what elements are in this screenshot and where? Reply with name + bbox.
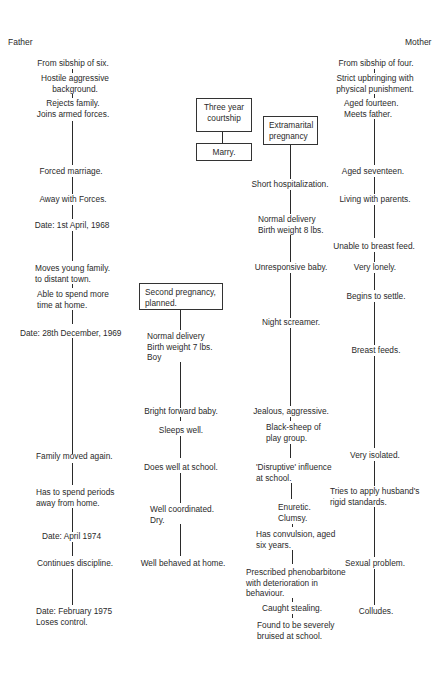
connector-line — [374, 356, 375, 448]
connector-line — [374, 205, 375, 238]
mother-event: Aged fourteen. Meets father. — [344, 98, 398, 119]
connector-line — [374, 252, 375, 262]
second-child-event: Bright forward baby. — [144, 406, 218, 417]
second-child-event: Normal delivery Birth weight 7 lbs. Boy — [147, 331, 212, 363]
connector-line — [72, 205, 73, 219]
first-child-event: 'Disruptive' influence at school. — [256, 462, 332, 483]
connector-line — [290, 190, 291, 214]
mother-column-header: Mother — [405, 37, 431, 47]
connector-line — [292, 614, 293, 618]
connector-line — [72, 463, 73, 485]
mother-event: Unable to breast feed. — [333, 241, 415, 252]
second-child-event: Sleeps well. — [159, 425, 203, 436]
mother-event: From sibship of four. — [338, 58, 413, 69]
connector-line — [72, 569, 73, 605]
connector-line — [180, 362, 181, 408]
connector-line — [180, 417, 181, 421]
mother-event: Very lonely. — [354, 262, 396, 273]
father-event: Continues discipline. — [37, 558, 113, 569]
connector-line — [180, 473, 181, 503]
father-event: Date: 28th December, 1969 — [20, 328, 121, 339]
mother-event: Begins to settle. — [346, 291, 405, 302]
connector-line — [72, 284, 73, 288]
connector-line — [72, 508, 73, 532]
connector-line — [180, 524, 181, 556]
connector-line — [374, 507, 375, 557]
first-child-event: Unresponsive baby. — [255, 262, 328, 273]
connector-line — [374, 177, 375, 194]
mother-event: Strict upbringing with physical punishme… — [336, 73, 413, 94]
mother-event: Breast feeds. — [352, 345, 401, 356]
connector-line — [72, 231, 73, 261]
connector-line — [290, 235, 291, 262]
first-child-event: Found to be severely bruised at school. — [257, 620, 334, 641]
connector-line — [374, 119, 375, 165]
first-child-event: Has convulsion, aged six years. — [256, 529, 335, 550]
first-child-event: Caught stealing. — [262, 603, 322, 614]
father-event: Moves young family. to distant town. — [35, 263, 110, 284]
first-child-event: Short hospitalization. — [251, 179, 328, 190]
connector-line — [291, 483, 292, 499]
mother-event: Sexual problem. — [345, 558, 405, 569]
connector-line — [180, 310, 181, 330]
connector-line — [374, 302, 375, 345]
connector-line — [290, 145, 291, 179]
connector-line — [290, 444, 291, 458]
father-event: Forced marriage. — [39, 166, 102, 177]
first-child-event: Normal delivery Birth weight 8 lbs. — [258, 214, 323, 235]
connector-line — [72, 542, 73, 556]
connector-line — [72, 177, 73, 194]
mother-event: Very isolated. — [350, 450, 400, 461]
connector-line — [180, 436, 181, 458]
father-event: Date: February 1975 Loses control. — [36, 606, 112, 627]
father-event: Away with Forces. — [39, 194, 106, 205]
cropped-page-header — [285, 0, 435, 3]
first-child-event: Black-sheep of play group. — [266, 422, 321, 443]
connector-line — [374, 273, 375, 290]
second-child-event: Does well at school. — [144, 462, 218, 473]
second-pregnancy-box: Second pregnancy, planned. — [139, 283, 223, 310]
mother-event: Aged seventeen. — [342, 166, 404, 177]
father-event: Family moved again. — [36, 451, 113, 462]
mother-event: Colludes. — [359, 606, 394, 617]
connector-line — [292, 524, 293, 527]
father-event: Has to spend periods away from home. — [36, 487, 114, 508]
connector-line — [222, 132, 223, 143]
father-event: Able to spend more time at home. — [37, 289, 109, 310]
connector-line — [292, 550, 293, 564]
second-child-event: Well behaved at home. — [141, 558, 226, 569]
father-event: From sibship of six. — [37, 58, 108, 69]
first-child-event: Jealous, aggressive. — [253, 406, 329, 417]
father-event: Hostile aggressive background. — [41, 73, 109, 94]
extramarital-pregnancy-box: Extramarital pregnancy — [263, 116, 318, 145]
connector-line — [374, 461, 375, 486]
father-event: Rejects family. Joins armed forces. — [37, 98, 109, 119]
marry-box: Marry. — [196, 143, 252, 161]
connector-line — [72, 310, 73, 324]
connector-line — [72, 338, 73, 454]
connector-line — [292, 598, 293, 602]
courtship-box: Three year courtship — [196, 98, 252, 132]
connector-line — [72, 121, 73, 165]
second-child-event: Well coordinated. Dry. — [150, 504, 214, 525]
connector-line — [290, 328, 291, 406]
first-child-event: Night screamer. — [262, 317, 320, 328]
connector-line — [374, 569, 375, 605]
mother-event: Living with parents. — [339, 194, 410, 205]
first-child-event: Prescribed phenobarbitone with deteriora… — [246, 567, 346, 599]
first-child-event: Enuretic. Clumsy. — [278, 502, 311, 523]
father-event: Date: April 1974 — [42, 531, 101, 542]
father-event: Date: 1st April, 1968 — [35, 220, 110, 231]
connector-line — [290, 417, 291, 421]
mother-event: Tries to apply husband's rigid standards… — [330, 486, 419, 507]
connector-line — [290, 273, 291, 318]
father-column-header: Father — [8, 37, 33, 47]
